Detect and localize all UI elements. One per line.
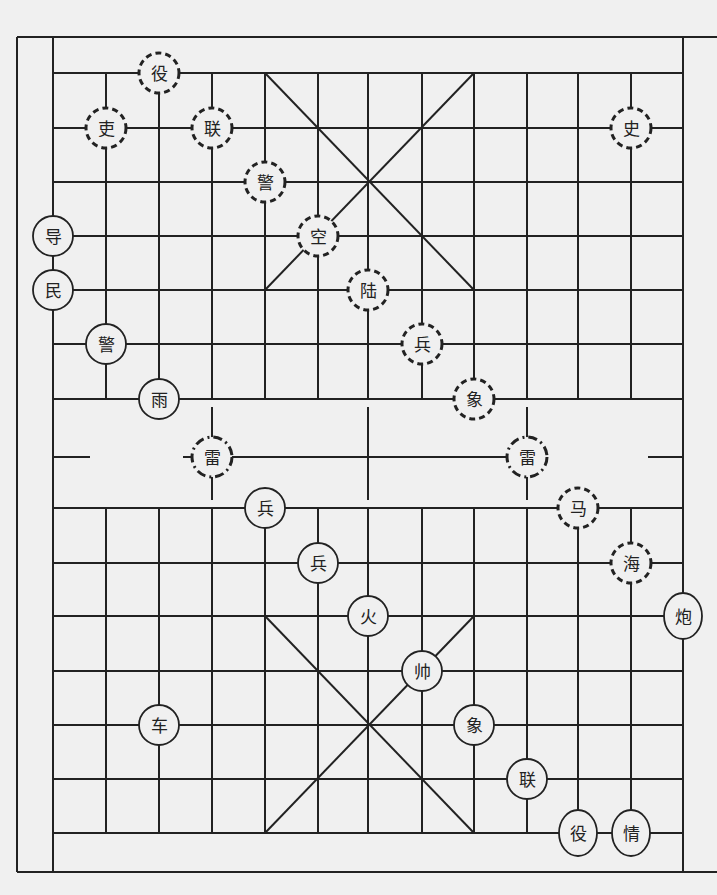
piece-solid-21[interactable]: 帅: [402, 651, 442, 691]
piece-label: 警: [257, 173, 274, 193]
piece-label: 海: [623, 554, 640, 574]
piece-label: 车: [151, 716, 168, 736]
piece-label: 兵: [310, 554, 327, 574]
piece-label: 空: [310, 227, 327, 247]
piece-solid-23[interactable]: 象: [454, 705, 494, 745]
piece-label: 民: [45, 281, 62, 301]
piece-label: 情: [623, 824, 640, 844]
piece-label: 警: [98, 335, 115, 355]
piece-dashdot-11[interactable]: 雷: [192, 437, 232, 477]
piece-solid-18[interactable]: 兵: [298, 543, 338, 583]
piece-label: 炮: [675, 607, 692, 627]
piece-dashed-4[interactable]: 警: [245, 162, 285, 202]
piece-solid-26[interactable]: 情: [612, 810, 650, 856]
game-board: 役吏联史警空陆兵象马海雷雷导民警雨兵兵火炮帅车象联役情: [0, 0, 717, 895]
piece-solid-20[interactable]: 炮: [664, 593, 702, 639]
piece-solid-19[interactable]: 火: [348, 596, 388, 636]
piece-solid-17[interactable]: 兵: [245, 488, 285, 528]
piece-dashed-1[interactable]: 吏: [86, 108, 126, 148]
piece-label: 象: [466, 716, 483, 736]
piece-label: 联: [204, 119, 221, 139]
piece-label: 火: [360, 607, 377, 627]
piece-dashed-0[interactable]: 役: [139, 53, 179, 93]
piece-label: 联: [519, 770, 536, 790]
piece-solid-25[interactable]: 役: [559, 810, 597, 856]
piece-label: 兵: [257, 499, 274, 519]
piece-dashed-2[interactable]: 联: [192, 108, 232, 148]
piece-dashdot-12[interactable]: 雷: [507, 437, 547, 477]
piece-dashed-6[interactable]: 陆: [348, 270, 388, 310]
piece-dashed-3[interactable]: 史: [611, 108, 651, 148]
piece-label: 雨: [151, 390, 168, 410]
piece-solid-24[interactable]: 联: [507, 759, 547, 799]
piece-label: 帅: [414, 662, 431, 682]
piece-dashed-10[interactable]: 海: [611, 543, 651, 583]
piece-label: 兵: [414, 335, 431, 355]
piece-label: 史: [623, 119, 640, 139]
piece-label: 导: [45, 227, 62, 247]
piece-dashed-8[interactable]: 象: [454, 379, 494, 419]
piece-solid-15[interactable]: 警: [86, 324, 126, 364]
piece-label: 吏: [98, 119, 115, 139]
piece-label: 象: [466, 390, 483, 410]
piece-solid-16[interactable]: 雨: [139, 379, 179, 419]
piece-solid-22[interactable]: 车: [139, 705, 179, 745]
piece-solid-14[interactable]: 民: [33, 270, 73, 310]
piece-dashed-9[interactable]: 马: [558, 488, 598, 528]
piece-label: 役: [570, 824, 587, 844]
piece-solid-13[interactable]: 导: [33, 216, 73, 256]
piece-label: 陆: [360, 281, 377, 301]
piece-label: 役: [151, 64, 168, 84]
piece-dashed-7[interactable]: 兵: [402, 324, 442, 364]
piece-label: 雷: [519, 448, 536, 468]
piece-label: 雷: [204, 448, 221, 468]
piece-dashed-5[interactable]: 空: [298, 216, 338, 256]
piece-label: 马: [570, 499, 587, 519]
board-grid: [17, 37, 717, 872]
